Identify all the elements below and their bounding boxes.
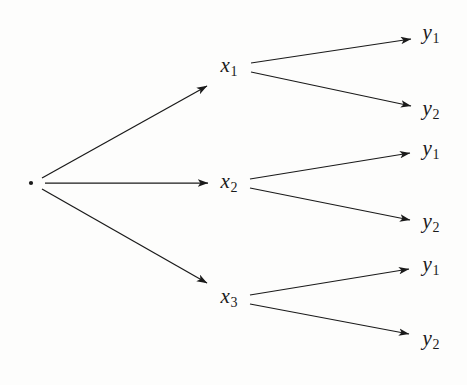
node-base-x2: x xyxy=(221,169,230,193)
tree-edge-x1-to-y2a xyxy=(251,72,411,106)
node-base-y2b: y xyxy=(423,209,432,233)
node-label-y2-from-x1: y2 xyxy=(423,98,440,122)
node-label-y1-from-x1: y1 xyxy=(423,22,440,46)
tree-edge-x3-to-y1c xyxy=(250,269,409,295)
node-label-y2-from-x2: y2 xyxy=(423,211,440,235)
tree-edge-root-to-x3 xyxy=(42,189,207,283)
node-subscript-x1: 1 xyxy=(230,64,237,79)
node-label-x2: x2 xyxy=(221,171,238,195)
node-subscript-x3: 3 xyxy=(230,295,237,310)
node-base-y2c: y xyxy=(423,326,432,350)
node-subscript-y1c: 1 xyxy=(432,263,439,278)
node-subscript-x2: 2 xyxy=(230,180,237,195)
node-label-y1-from-x2: y1 xyxy=(423,138,440,162)
root-node-dot xyxy=(29,181,33,185)
tree-edge-x1-to-y1a xyxy=(251,39,411,63)
node-label-y2-from-x3: y2 xyxy=(423,328,440,352)
node-base-x1: x xyxy=(221,53,230,77)
node-subscript-y2b: 2 xyxy=(432,220,439,235)
tree-diagram: x1 x2 x3 y1 y2 y1 y2 y1 y2 xyxy=(0,0,467,385)
node-label-x3: x3 xyxy=(221,286,238,310)
tree-edge-x3-to-y2c xyxy=(250,304,409,334)
node-subscript-y1a: 1 xyxy=(432,31,439,46)
node-subscript-y2c: 2 xyxy=(432,337,439,352)
tree-edge-x2-to-y1b xyxy=(250,153,410,179)
node-subscript-y1b: 1 xyxy=(432,147,439,162)
node-base-y1b: y xyxy=(423,136,432,160)
node-base-y1a: y xyxy=(423,20,432,44)
tree-edge-root-to-x1 xyxy=(42,86,207,178)
node-subscript-y2a: 2 xyxy=(432,107,439,122)
node-label-x1: x1 xyxy=(221,55,238,79)
tree-edge-x2-to-y2b xyxy=(250,188,410,220)
node-label-y1-from-x3: y1 xyxy=(423,254,440,278)
node-base-x3: x xyxy=(221,284,230,308)
node-base-y2a: y xyxy=(423,96,432,120)
node-base-y1c: y xyxy=(423,252,432,276)
